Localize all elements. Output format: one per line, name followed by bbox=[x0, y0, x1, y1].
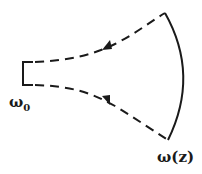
lower-beam-edge bbox=[35, 85, 168, 140]
beam-width-text: ω(z) bbox=[157, 148, 194, 166]
waist-label: ω0 bbox=[9, 95, 30, 113]
upper-arrow-icon bbox=[102, 40, 112, 50]
waist-bracket bbox=[23, 62, 33, 85]
lower-arrow-icon bbox=[102, 95, 110, 105]
beam-width-label: ω(z) bbox=[157, 150, 194, 165]
waist-symbol: ω bbox=[9, 93, 23, 111]
wavefront-arc bbox=[165, 13, 183, 140]
upper-beam-edge bbox=[35, 13, 165, 62]
waist-subscript: 0 bbox=[23, 102, 30, 113]
